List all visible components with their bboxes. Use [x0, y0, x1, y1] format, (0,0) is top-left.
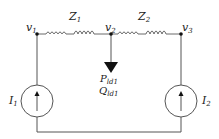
load-q-label: Qld1 — [99, 85, 118, 98]
impedance-z2-label: Z2 — [137, 10, 151, 24]
current-source-i2 — [165, 85, 197, 117]
source-i1-label: I1 — [8, 94, 18, 108]
load-arrow-icon — [104, 62, 118, 73]
circuit-diagram: v1 v2 v3 Z1 Z2 I1 I2 Pld1 Qld1 — [0, 0, 219, 139]
source-i2-label: I2 — [201, 94, 211, 108]
impedance-z2 — [111, 31, 181, 34]
node-v3-label: v3 — [182, 21, 193, 35]
impedance-z1 — [37, 31, 111, 34]
arrow-up-icon — [35, 91, 40, 96]
node-v2-label: v2 — [105, 21, 116, 35]
current-source-i1 — [21, 85, 53, 117]
impedance-z1-label: Z1 — [68, 10, 81, 24]
arrow-up-icon — [179, 91, 184, 96]
node-v1-label: v1 — [26, 21, 37, 35]
